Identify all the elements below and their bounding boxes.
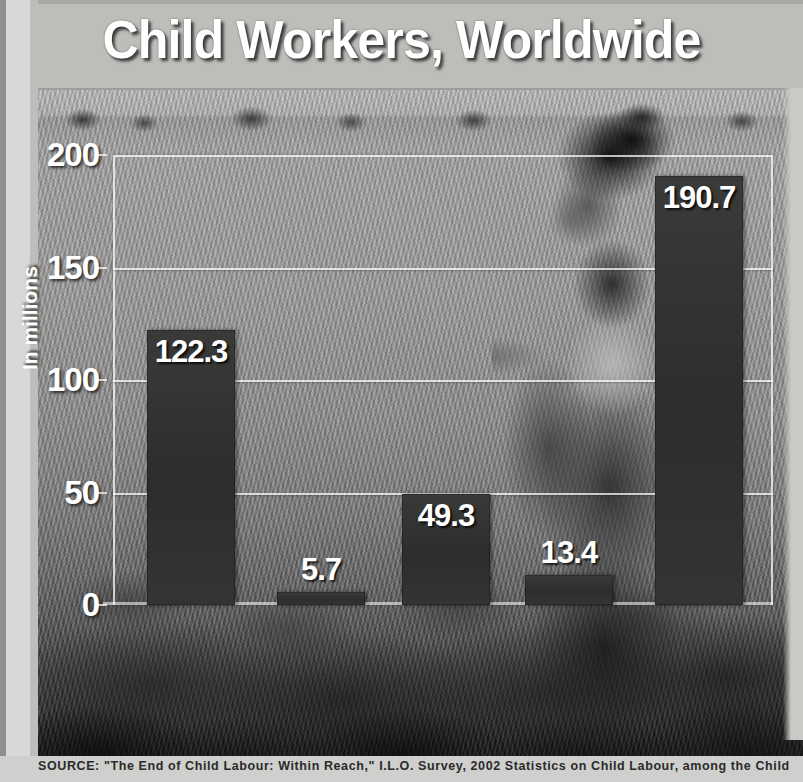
bar-value-label: 122.3 — [155, 334, 228, 370]
y-tick-label: 150 — [47, 249, 99, 287]
bar[interactable] — [277, 592, 365, 605]
y-tick-mark — [97, 379, 107, 381]
y-tick-label: 100 — [47, 361, 99, 399]
bar-value-label: 49.3 — [418, 498, 474, 534]
source-note: SOURCE: "The End of Child Labour: Within… — [38, 759, 790, 773]
y-axis-label: In millions — [18, 266, 42, 370]
bar-chart: 200150100500 In millions 122.3AsiaandPac… — [113, 155, 773, 605]
tree-line-decoration — [37, 88, 803, 132]
y-tick-mark — [97, 267, 107, 269]
bar-value-label: 5.7 — [301, 552, 341, 588]
bar-value-label: 13.4 — [541, 535, 597, 571]
source-band: SOURCE: "The End of Child Labour: Within… — [0, 756, 803, 782]
y-tick-label: 50 — [64, 474, 99, 512]
bar[interactable] — [147, 330, 235, 605]
left-margin-strip — [0, 0, 38, 782]
y-tick-mark — [97, 154, 107, 156]
bar[interactable] — [525, 575, 613, 605]
bar[interactable] — [655, 176, 743, 605]
y-tick-mark — [97, 492, 107, 494]
page-title: Child Workers, Worldwide — [28, 8, 775, 70]
bar-value-label: 190.7 — [663, 180, 736, 216]
infographic-chart: Child Workers, Worldwide 200150100500 In… — [0, 0, 803, 782]
right-margin-strip — [783, 88, 803, 740]
bars-group: 122.3AsiaandPacific5.7LatinAmericaandCar… — [113, 155, 773, 605]
y-tick-mark — [97, 604, 107, 606]
y-tick-label: 200 — [47, 136, 99, 174]
